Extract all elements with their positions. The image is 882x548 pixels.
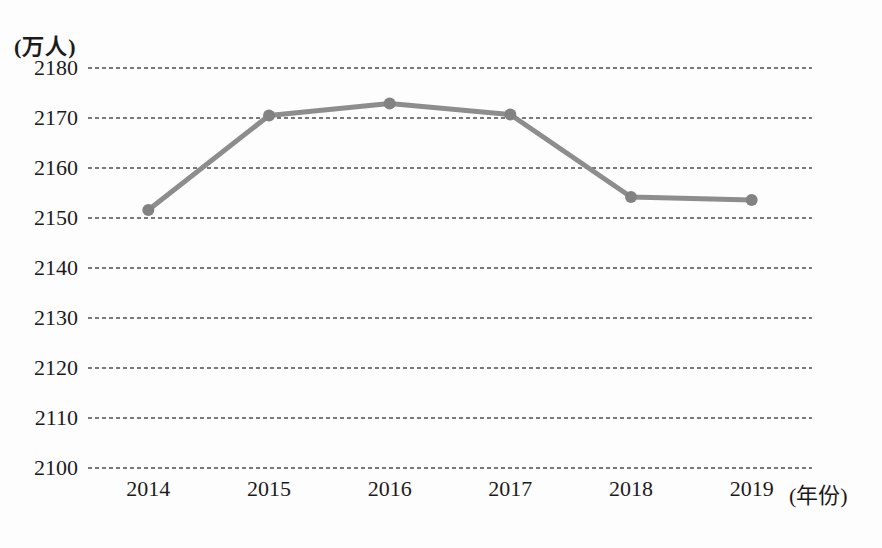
data-point — [625, 191, 637, 203]
y-tick-label: 2100 — [16, 456, 78, 480]
data-point — [263, 110, 275, 122]
y-tick-label: 2170 — [16, 106, 78, 130]
y-tick-label: 2140 — [16, 256, 78, 280]
series-line — [148, 104, 751, 211]
data-point — [504, 109, 516, 121]
data-point — [746, 194, 758, 206]
line-chart: (万人) (年份) 218021702160215021402130212021… — [0, 0, 882, 548]
y-tick-label: 2130 — [16, 306, 78, 330]
y-tick-label: 2180 — [16, 56, 78, 80]
x-tick-label: 2017 — [465, 477, 555, 501]
y-tick-label: 2110 — [16, 406, 78, 430]
x-tick-label: 2019 — [707, 477, 797, 501]
plot-area — [0, 0, 882, 548]
x-tick-label: 2014 — [103, 477, 193, 501]
x-axis-unit-label: (年份) — [789, 477, 848, 509]
y-tick-label: 2120 — [16, 356, 78, 380]
data-point — [142, 204, 154, 216]
data-point — [384, 98, 396, 110]
y-tick-label: 2160 — [16, 156, 78, 180]
y-tick-label: 2150 — [16, 206, 78, 230]
x-tick-label: 2015 — [224, 477, 314, 501]
x-tick-label: 2018 — [586, 477, 676, 501]
x-tick-label: 2016 — [345, 477, 435, 501]
